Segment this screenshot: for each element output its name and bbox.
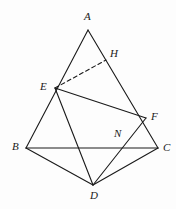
edge-E-F	[55, 88, 146, 118]
vertex-label-N: N	[114, 128, 121, 139]
vertex-label-F: F	[151, 111, 158, 122]
vertex-label-H: H	[110, 48, 118, 59]
edge-E-D	[55, 88, 93, 185]
edge-group	[26, 30, 158, 185]
edge-A-C	[88, 30, 158, 148]
edge-D-C	[93, 148, 158, 185]
vertex-label-A: A	[84, 11, 91, 22]
edge-E-H	[55, 60, 106, 88]
edge-B-D	[26, 148, 93, 185]
vertex-label-D: D	[90, 190, 98, 201]
vertex-label-C: C	[163, 142, 170, 153]
vertex-label-E: E	[40, 81, 47, 92]
geometry-figure: A B C D E F H N	[0, 0, 176, 209]
vertex-label-B: B	[12, 141, 19, 152]
geometry-diagram	[0, 0, 176, 209]
